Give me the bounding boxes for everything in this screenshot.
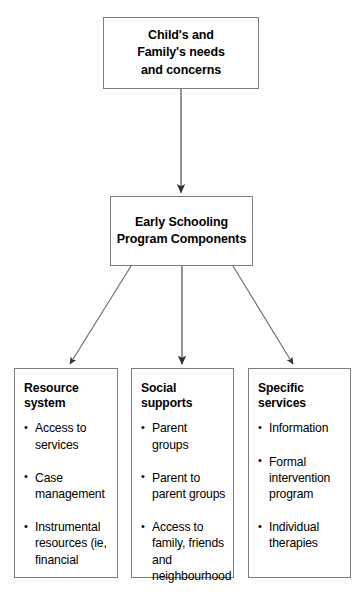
list-item: Formal intervention program (258, 454, 343, 503)
social-supports-list: Parent groups Parent to parent groups Ac… (141, 420, 226, 584)
social-supports-heading: Social supports (141, 381, 226, 410)
list-item: Information (258, 420, 343, 436)
node-specific-services: Specific services Information Formal int… (248, 368, 351, 578)
node-program-components-text: Early Schooling Program Components (117, 214, 246, 249)
node-social-supports: Social supports Parent groups Parent to … (131, 368, 234, 578)
program-line-1: Early Schooling (135, 215, 228, 229)
list-item: Access to services (24, 420, 110, 452)
node-child-family-needs-text: Child's and Family's needs and concerns (137, 27, 225, 79)
list-item: Individual therapies (258, 519, 343, 551)
node-child-family-needs: Child's and Family's needs and concerns (103, 17, 259, 89)
specific-services-list: Information Formal intervention program … (258, 420, 343, 551)
list-item: Case management (24, 470, 110, 502)
arrow-program-to-resource-system (70, 266, 131, 364)
list-item: Parent to parent groups (141, 470, 226, 502)
list-item: Instrumental resources (ie, financial (24, 519, 110, 568)
node-resource-system: Resource system Access to services Case … (14, 368, 118, 578)
list-item: Access to family, friends and neighbourh… (141, 519, 226, 584)
resource-system-list: Access to services Case management Instr… (24, 420, 110, 568)
arrow-program-to-specific-services (233, 266, 293, 364)
node-early-schooling-program-components: Early Schooling Program Components (110, 196, 253, 266)
root-line-1: Child's and (148, 28, 214, 42)
resource-system-heading: Resource system (24, 381, 110, 410)
root-line-2: Family's needs (137, 45, 225, 59)
flowchart-diagram: Child's and Family's needs and concerns … (0, 0, 363, 597)
program-line-2: Program Components (117, 232, 246, 246)
specific-services-heading: Specific services (258, 381, 343, 410)
list-item: Parent groups (141, 420, 226, 452)
root-line-3: and concerns (141, 63, 221, 77)
